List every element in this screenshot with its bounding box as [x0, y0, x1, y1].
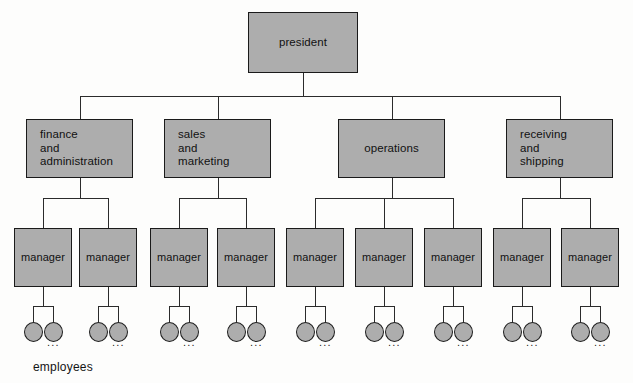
employee-circle[interactable]: [44, 322, 63, 342]
connector-employee-bus: [169, 306, 189, 307]
connector-employee-drop: [256, 306, 257, 322]
connector-employee-stem: [315, 287, 316, 306]
employee-circle[interactable]: [503, 322, 522, 342]
employee-circle[interactable]: [160, 322, 179, 342]
connector-employee-stem: [522, 287, 523, 306]
connector-department-drop: [392, 96, 393, 119]
node-manager-4[interactable]: manager: [217, 228, 275, 287]
node-manager-8[interactable]: manager: [493, 228, 551, 287]
connector-employee-stem: [246, 287, 247, 306]
connector-employee-drop: [600, 306, 601, 322]
connector-employee-drop: [325, 306, 326, 322]
connector-employee-stem: [43, 287, 44, 306]
connector-employee-bus: [305, 306, 325, 307]
connector-manager-drop: [179, 198, 180, 228]
connector-employee-bus: [33, 306, 53, 307]
connector-department-drop: [80, 96, 81, 119]
connector-employee-drop: [169, 306, 170, 322]
connector-manager-drop: [315, 198, 316, 228]
employees-caption-label: employees: [33, 360, 93, 374]
connector-president-stem: [303, 73, 304, 96]
connector-employee-stem: [590, 287, 591, 306]
connector-employee-stem: [453, 287, 454, 306]
connector-employee-drop: [580, 306, 581, 322]
employee-circle[interactable]: [109, 322, 128, 342]
connector-employee-drop: [443, 306, 444, 322]
employee-circle[interactable]: [227, 322, 246, 342]
connector-manager-bus: [43, 198, 108, 199]
connector-employee-drop: [53, 306, 54, 322]
employee-circle[interactable]: [385, 322, 404, 342]
connector-manager-drop: [590, 198, 591, 228]
connector-employee-drop: [305, 306, 306, 322]
node-manager-9[interactable]: manager: [561, 228, 619, 287]
node-president[interactable]: president: [248, 12, 358, 73]
connector-manager-drop: [246, 198, 247, 228]
connector-employee-stem: [179, 287, 180, 306]
connector-employee-drop: [98, 306, 99, 322]
node-department-receiving-and-shipping[interactable]: receiving and shipping: [506, 119, 613, 178]
connector-manager-drop: [384, 198, 385, 228]
connector-employee-stem: [108, 287, 109, 306]
employee-circle[interactable]: [523, 322, 542, 342]
connector-employee-drop: [512, 306, 513, 322]
connector-employee-drop: [236, 306, 237, 322]
node-department-finance-and-administration[interactable]: finance and administration: [26, 119, 133, 178]
connector-department-stem: [560, 178, 561, 198]
employee-circle[interactable]: [296, 322, 315, 342]
employee-circle[interactable]: [89, 322, 108, 342]
employee-circle[interactable]: [316, 322, 335, 342]
employee-circle[interactable]: [24, 322, 43, 342]
employee-circle[interactable]: [591, 322, 610, 342]
connector-employee-drop: [463, 306, 464, 322]
connector-manager-drop: [43, 198, 44, 228]
connector-manager-bus: [179, 198, 246, 199]
employee-circle[interactable]: [365, 322, 384, 342]
employee-circle[interactable]: [434, 322, 453, 342]
employee-circle[interactable]: [180, 322, 199, 342]
connector-department-drop: [218, 96, 219, 119]
node-manager-1[interactable]: manager: [14, 228, 72, 287]
connector-employee-stem: [384, 287, 385, 306]
connector-employee-bus: [580, 306, 600, 307]
connector-employee-drop: [532, 306, 533, 322]
connector-employee-drop: [189, 306, 190, 322]
employee-circle[interactable]: [454, 322, 473, 342]
node-department-operations[interactable]: operations: [338, 119, 445, 178]
connector-manager-bus: [522, 198, 590, 199]
node-department-sales-and-marketing[interactable]: sales and marketing: [164, 119, 271, 178]
connector-employee-drop: [118, 306, 119, 322]
node-manager-6[interactable]: manager: [355, 228, 413, 287]
connector-department-stem: [218, 178, 219, 198]
employee-circle[interactable]: [571, 322, 590, 342]
connector-manager-drop: [522, 198, 523, 228]
connector-department-stem: [392, 178, 393, 198]
connector-employee-bus: [98, 306, 118, 307]
connector-department-stem: [80, 178, 81, 198]
connector-employee-drop: [33, 306, 34, 322]
connector-employee-drop: [394, 306, 395, 322]
node-manager-7[interactable]: manager: [424, 228, 482, 287]
connector-department-bus: [80, 96, 560, 97]
connector-employee-bus: [236, 306, 256, 307]
connector-employee-bus: [374, 306, 394, 307]
connector-employee-bus: [443, 306, 463, 307]
connector-employee-bus: [512, 306, 532, 307]
connector-manager-drop: [108, 198, 109, 228]
connector-manager-drop: [453, 198, 454, 228]
connector-employee-drop: [374, 306, 375, 322]
node-manager-5[interactable]: manager: [286, 228, 344, 287]
org-chart-diagram: presidentfinance and administrationsales…: [0, 0, 633, 383]
node-manager-3[interactable]: manager: [150, 228, 208, 287]
connector-department-drop: [560, 96, 561, 119]
node-manager-2[interactable]: manager: [79, 228, 137, 287]
employee-circle[interactable]: [247, 322, 266, 342]
